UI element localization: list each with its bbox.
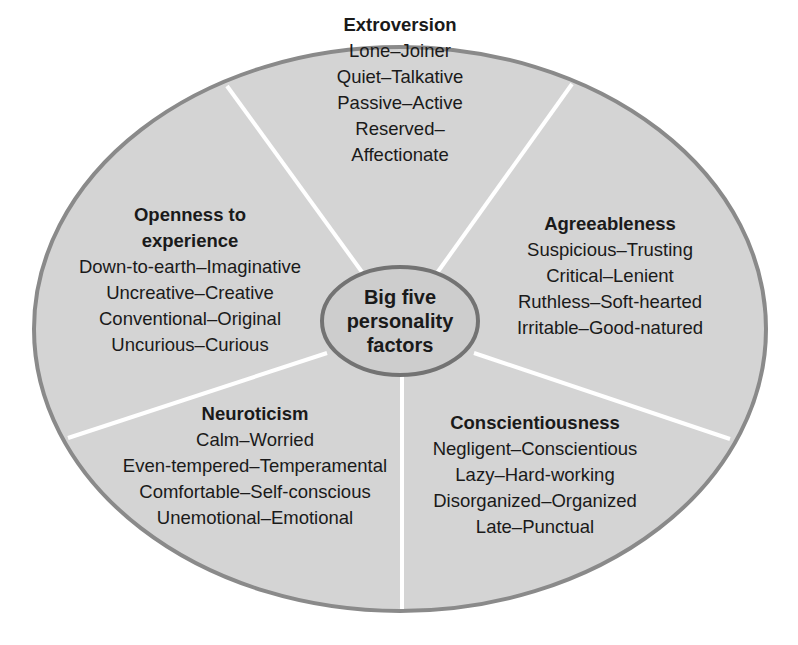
segment-title: experience [40, 228, 340, 254]
trait-item: Down-to-earth–Imaginative [40, 254, 340, 280]
segment-conscientiousness: Conscientiousness Negligent–Conscientiou… [405, 410, 665, 540]
trait-item: Calm–Worried [105, 427, 405, 453]
segment-title: Conscientiousness [405, 410, 665, 436]
trait-item: Uncreative–Creative [40, 280, 340, 306]
trait-item: Lone–Joiner [300, 38, 500, 64]
center-label-line: factors [320, 333, 480, 357]
center-label-line: personality [320, 309, 480, 333]
trait-item: Comfortable–Self-conscious [105, 479, 405, 505]
trait-item: Affectionate [300, 142, 500, 168]
segment-extroversion: Extroversion Lone–Joiner Quiet–Talkative… [300, 12, 500, 168]
segment-agreeableness: Agreeableness Suspicious–Trusting Critic… [480, 211, 740, 341]
segment-neuroticism: Neuroticism Calm–Worried Even-tempered–T… [105, 401, 405, 531]
trait-item: Unemotional–Emotional [105, 505, 405, 531]
trait-item: Quiet–Talkative [300, 64, 500, 90]
center-label: Big five personality factors [320, 285, 480, 357]
trait-item: Disorganized–Organized [405, 488, 665, 514]
trait-item: Irritable–Good-natured [480, 315, 740, 341]
trait-item: Uncurious–Curious [40, 332, 340, 358]
center-label-line: Big five [320, 285, 480, 309]
trait-item: Late–Punctual [405, 514, 665, 540]
trait-item: Critical–Lenient [480, 263, 740, 289]
trait-item: Suspicious–Trusting [480, 237, 740, 263]
trait-item: Passive–Active [300, 90, 500, 116]
segment-title: Openness to [40, 202, 340, 228]
trait-item: Conventional–Original [40, 306, 340, 332]
segment-title: Agreeableness [480, 211, 740, 237]
trait-item: Negligent–Conscientious [405, 436, 665, 462]
trait-item: Reserved– [300, 116, 500, 142]
trait-item: Ruthless–Soft-hearted [480, 289, 740, 315]
segment-title: Extroversion [300, 12, 500, 38]
trait-item: Even-tempered–Temperamental [105, 453, 405, 479]
trait-item: Lazy–Hard-working [405, 462, 665, 488]
segment-title: Neuroticism [105, 401, 405, 427]
segment-openness: Openness to experience Down-to-earth–Ima… [40, 202, 340, 358]
